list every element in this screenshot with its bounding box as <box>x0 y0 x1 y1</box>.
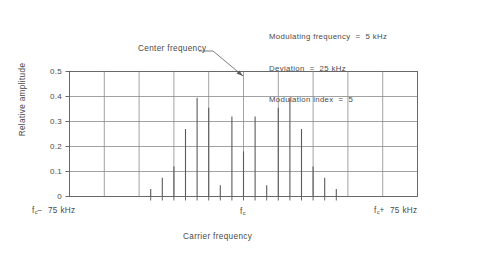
parameter-annotation-block: Modulating frequency = 5 kHz Deviation =… <box>269 11 387 127</box>
y-tick-label-0.2: 0.2 <box>36 142 62 151</box>
x-left-fc-rest: − 75 kHz <box>38 206 76 215</box>
y-tick-label-0.1: 0.1 <box>36 167 62 176</box>
x-tick-marks <box>151 197 337 201</box>
center-frequency-leader <box>199 51 243 76</box>
y-tick-label-0.5: 0.5 <box>36 67 62 76</box>
y-tick-label-0.4: 0.4 <box>36 92 62 101</box>
y-tick-label-0.3: 0.3 <box>36 117 62 126</box>
y-tick-marks <box>66 72 70 197</box>
center-frequency-annotation: Center frequency <box>138 44 206 55</box>
fm-spectrum-figure: Modulating frequency = 5 kHz Deviation =… <box>0 0 485 257</box>
x-tick-label-center: fc <box>240 207 246 216</box>
spectrum-plot-svg <box>0 0 485 257</box>
x-right-fc-rest: + 75 kHz <box>380 206 418 215</box>
x-axis-title: Carrier frequency <box>183 232 252 241</box>
x-mid-fc-sub: c <box>243 210 246 216</box>
y-tick-label-0: 0 <box>36 192 62 201</box>
x-tick-label-right: fc+ 75 kHz <box>374 206 418 215</box>
x-tick-label-left: fc− 75 kHz <box>32 206 76 215</box>
modulating-frequency-text: Modulating frequency = 5 kHz <box>269 32 387 43</box>
modulation-index-text: Modulation index = 5 <box>269 95 387 106</box>
deviation-text: Deviation = 25 kHz <box>269 64 387 75</box>
y-axis-title: Relative amplitude <box>18 45 27 155</box>
